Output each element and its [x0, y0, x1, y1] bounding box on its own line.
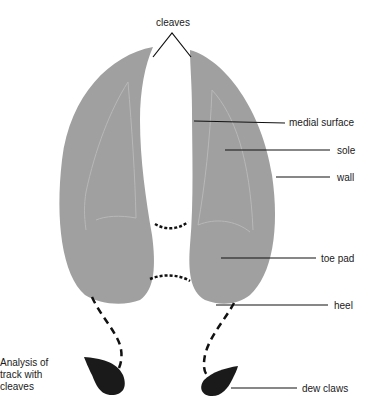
- label-cleaves: cleaves: [156, 17, 190, 29]
- label-wall: wall: [337, 172, 354, 184]
- label-dew-claws: dew claws: [302, 383, 348, 395]
- label-sole: sole: [337, 145, 355, 157]
- caption-line-1: Analysis of: [0, 357, 80, 369]
- caption-line-2: track with: [0, 369, 80, 381]
- left-cleave: [59, 47, 154, 304]
- label-toe-pad: toe pad: [321, 253, 354, 265]
- hoof-track-diagram: [0, 0, 373, 412]
- label-heel: heel: [334, 300, 353, 312]
- left-dew-claw: [84, 357, 125, 395]
- label-medial-surface: medial surface: [289, 117, 354, 129]
- cleaves-pointer: [153, 33, 191, 57]
- right-dew-claw: [201, 366, 238, 396]
- caption-line-3: cleaves: [0, 381, 80, 393]
- upper-dotted-connector: [155, 222, 188, 228]
- right-cleave: [189, 50, 275, 304]
- figure-caption: Analysis of track with cleaves: [0, 357, 80, 393]
- right-dew-claw-dashed-path: [204, 303, 234, 375]
- lower-dotted-connector: [150, 275, 190, 281]
